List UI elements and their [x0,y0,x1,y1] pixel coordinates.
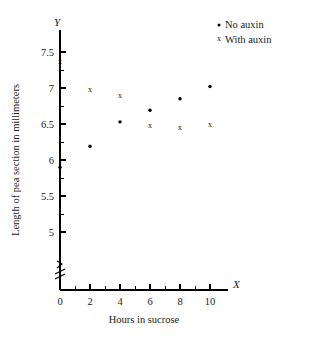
data-point [58,166,61,169]
legend-label-with-auxin: With auxin [225,34,272,45]
plot-canvas: Y X 55.566.577.5 0246810 xxxxxx Hours in… [0,0,310,340]
x-tick-label-8: 8 [177,296,182,307]
y-tick-label-7: 7 [49,83,54,94]
data-point: x [148,121,152,130]
legend-label-no-auxin: No auxin [225,19,265,30]
legend: No auxin x With auxin [217,19,272,45]
data-point [118,120,121,123]
y-tick-label-6: 6 [49,155,54,166]
x-axis-title: Hours in sucrose [109,314,180,325]
data-point: x [118,91,122,100]
scatter-plot-figure: Y X 55.566.577.5 0246810 xxxxxx Hours in… [0,0,310,340]
x-tick-label-10: 10 [205,296,216,307]
series-no-auxin [58,85,211,169]
data-point: x [58,57,62,66]
data-point [88,145,91,148]
legend-x-icon: x [217,34,221,43]
x-tick-label-6: 6 [147,296,152,307]
series-with-auxin: xxxxxx [58,57,212,132]
y-tick-label-6-5: 6.5 [41,119,54,130]
y-axis-title: Length of pea section in millimeters [10,84,21,236]
data-points-group: xxxxxx [58,57,212,169]
data-point: x [208,120,212,129]
legend-dot-icon [218,24,221,27]
x-tick-label-0: 0 [57,296,62,307]
x-tick-label-4: 4 [117,296,123,307]
data-point [178,97,181,100]
x-axis-ticks: 0246810 [57,284,215,307]
y-tick-label-7-5: 7.5 [41,47,54,58]
data-point [208,85,211,88]
data-point [148,109,151,112]
data-point: x [88,85,92,94]
y-axis-ticks: 55.566.577.5 [41,47,66,238]
y-tick-label-5-5: 5.5 [41,191,54,202]
y-axis-name-label: Y [54,16,62,28]
x-axis-name-label: X [232,278,241,290]
y-tick-label-5: 5 [49,227,54,238]
x-tick-label-2: 2 [87,296,92,307]
data-point: x [178,123,182,132]
